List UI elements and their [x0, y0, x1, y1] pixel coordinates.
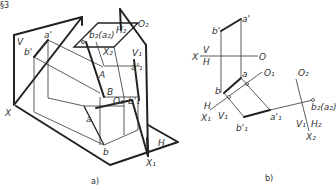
label-H: H	[158, 138, 165, 148]
label-O2: O₂	[138, 19, 149, 29]
label-b-prime: b'	[212, 26, 220, 36]
label-a-prime: a'	[242, 14, 250, 24]
label-H2: H₂	[116, 25, 127, 35]
corner-mark: §3	[0, 1, 9, 10]
label-V: V	[17, 37, 24, 47]
label-V1-x2: V₁	[296, 119, 306, 129]
label-O: O	[259, 52, 266, 62]
label-V1-x1: V₁	[218, 111, 228, 121]
label-H-x1: H	[204, 101, 211, 111]
label-b2-a2: b₂(a₂)	[89, 30, 114, 40]
label-H: H	[203, 57, 210, 67]
line-ab	[84, 106, 104, 145]
caption-b: b)	[265, 174, 273, 183]
label-X: X	[191, 52, 199, 62]
label-b1-prime: b'₁	[128, 96, 140, 106]
label-H2: H₂	[311, 119, 322, 129]
panel-a-pictorial: V a' b' b₂(a₂) H₂ O₂ X₂ V₁ a'₁ A B O₁ b'…	[4, 9, 178, 186]
label-X1: X₁	[200, 113, 211, 123]
projector-a1-prime-b2	[270, 100, 313, 110]
label-V1: V₁	[132, 48, 142, 58]
label-O1: O₁	[264, 68, 275, 78]
v1-plane-bottom-edge	[132, 100, 148, 156]
label-X: X	[4, 108, 12, 118]
label-b-prime: b'	[24, 47, 32, 57]
projector-a-a1-prime	[241, 78, 270, 110]
label-X2: X₂	[305, 132, 316, 142]
label-b: b	[215, 86, 221, 96]
line-a-prime-b-prime	[34, 40, 48, 57]
caption-a: a)	[91, 177, 99, 186]
label-b1-prime: b'₁	[236, 123, 248, 133]
label-V: V	[203, 45, 210, 55]
line-ab	[224, 78, 241, 93]
label-a1-prime: a'₁	[131, 62, 143, 72]
label-A: A	[98, 70, 105, 80]
panel-b-orthographic: a' b' X V H O a b O₁ O₂ H X₁ V₁ b'₁ a'₁ …	[191, 14, 336, 183]
label-X1: X₁	[145, 158, 156, 168]
descriptive-geometry-figure: §3	[0, 0, 336, 190]
label-a: a	[242, 69, 248, 79]
line-a1-prime-b1-prime	[244, 110, 270, 117]
projector-b-prime-B	[34, 57, 100, 93]
h-projector-b-x1	[104, 130, 138, 145]
line-a-prime-b-prime	[221, 19, 241, 31]
h2-to-v1-projector	[114, 47, 124, 97]
label-b: b	[103, 147, 109, 157]
label-a1-prime: a'₁	[270, 112, 282, 122]
label-O2: O₂	[298, 68, 309, 78]
x1-axis-end	[147, 138, 148, 156]
label-X2: X₂	[102, 47, 113, 57]
b2-a2-point-marker	[82, 41, 85, 44]
projector-a-prime-A	[48, 40, 103, 67]
label-b2-a2: b₂(a₂)	[311, 102, 336, 112]
h-projector-a	[48, 98, 84, 106]
label-a: a	[86, 114, 92, 124]
label-O1: O₁	[113, 96, 124, 106]
label-a-prime: a'	[44, 30, 52, 40]
